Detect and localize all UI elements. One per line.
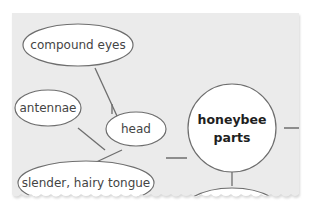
node-label: antennae <box>20 101 77 115</box>
node-label: slender, hairy tongue <box>22 176 151 190</box>
node-tongue: slender, hairy tongue <box>18 161 154 205</box>
center-label-line2: parts <box>214 130 251 145</box>
node-label: head <box>121 122 151 136</box>
concept-map: compound eyes antennae head slender, hai… <box>0 0 311 212</box>
center-label-line1: honeybee <box>198 112 267 127</box>
node-label: compound eyes <box>30 38 125 52</box>
node-antennae: antennae <box>15 90 81 126</box>
node-head: head <box>106 112 166 146</box>
node-center: honeybee parts <box>188 84 276 172</box>
node-compound-eyes: compound eyes <box>23 24 133 66</box>
